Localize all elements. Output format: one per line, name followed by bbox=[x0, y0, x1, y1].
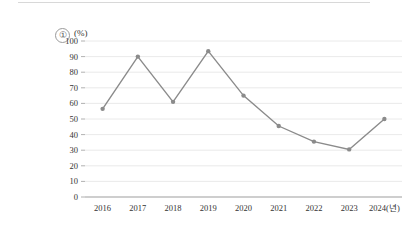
data-point bbox=[241, 93, 245, 97]
y-tick-label: 0 bbox=[74, 192, 78, 202]
x-tick-label: 2016 bbox=[94, 203, 111, 213]
data-point bbox=[206, 49, 210, 53]
x-tick-label: 2019 bbox=[200, 203, 217, 213]
x-axis-tick-labels: 201620172018201920202021202220232024(년) bbox=[94, 203, 400, 213]
x-tick-label: 2024(년) bbox=[369, 203, 400, 213]
x-tick-label: 2017 bbox=[129, 203, 146, 213]
gridlines-group bbox=[81, 41, 402, 197]
y-tick-label: 40 bbox=[70, 130, 79, 140]
x-tick-label: 2018 bbox=[165, 203, 182, 213]
y-tick-label: 50 bbox=[70, 114, 79, 124]
chart-svg: 0102030405060708090100 20162017201820192… bbox=[40, 16, 406, 225]
data-point bbox=[312, 139, 316, 143]
data-point bbox=[382, 117, 386, 121]
y-tick-label: 90 bbox=[70, 52, 79, 62]
y-tick-label: 70 bbox=[70, 83, 79, 93]
data-point bbox=[136, 54, 140, 58]
y-axis-tick-labels: 0102030405060708090100 bbox=[65, 36, 78, 202]
y-tick-label: 20 bbox=[70, 161, 79, 171]
x-tick-label: 2023 bbox=[341, 203, 358, 213]
data-point bbox=[171, 100, 175, 104]
page-top-divider bbox=[18, 2, 370, 3]
y-tick-label: 100 bbox=[65, 36, 78, 46]
x-tick-label: 2022 bbox=[305, 203, 322, 213]
plot-area: 0102030405060708090100 20162017201820192… bbox=[40, 16, 406, 225]
x-tick-label: 2021 bbox=[270, 203, 287, 213]
x-tick-label: 2020 bbox=[235, 203, 252, 213]
y-tick-label: 10 bbox=[70, 176, 79, 186]
line-chart-figure: ① (%) 0102030405060708090100 20162017201… bbox=[40, 16, 406, 225]
data-point bbox=[347, 147, 351, 151]
data-point bbox=[100, 107, 104, 111]
y-tick-label: 60 bbox=[70, 98, 79, 108]
data-point bbox=[277, 124, 281, 128]
y-tick-label: 30 bbox=[70, 145, 79, 155]
y-tick-label: 80 bbox=[70, 67, 79, 77]
